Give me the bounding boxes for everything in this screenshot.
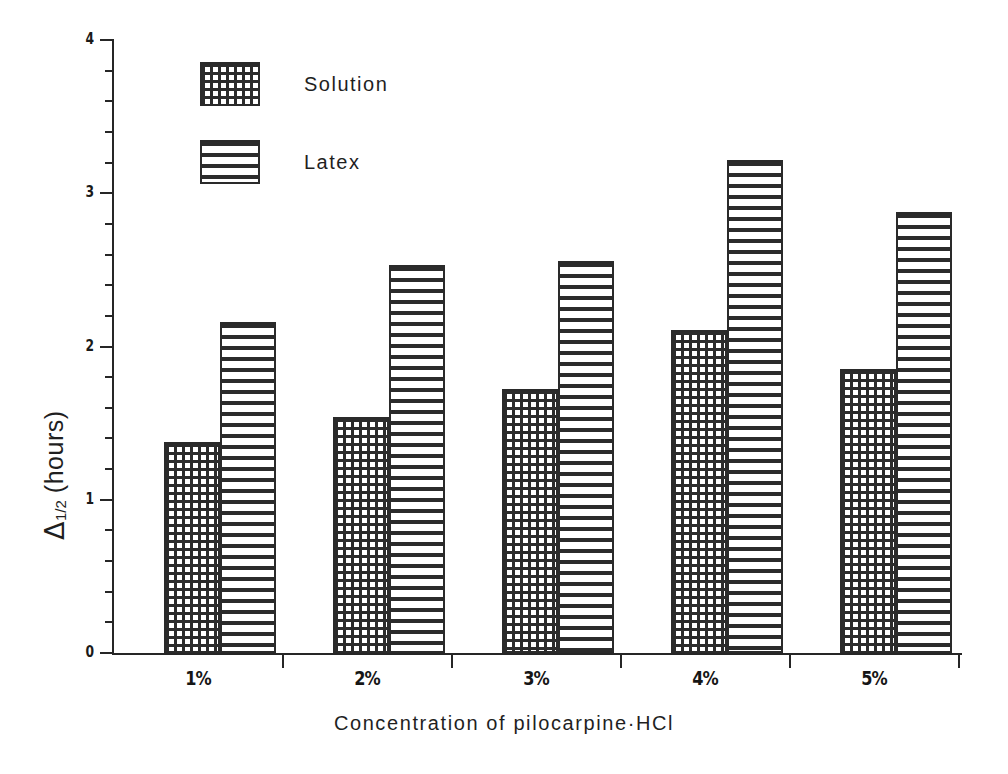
legend-label-solution: Solution [304, 73, 388, 96]
y-tick-minor [105, 468, 113, 470]
x-tick-label: 2% [337, 667, 397, 689]
bar-latex-3pct [558, 261, 614, 653]
y-tick-minor [105, 407, 113, 409]
legend-swatch-latex-icon [200, 140, 260, 184]
y-tick-minor [105, 100, 113, 102]
x-axis-end-tick [958, 655, 960, 668]
legend: Solution Latex [200, 56, 460, 212]
x-tick-label: 5% [844, 667, 904, 689]
y-axis-units: (hours) [40, 410, 69, 493]
y-tick-minor [105, 376, 113, 378]
y-tick-minor [105, 70, 113, 72]
x-axis-title: Concentration of pilocarpine·HCl [0, 712, 1008, 735]
y-tick-major [100, 39, 113, 41]
legend-item-latex[interactable]: Latex [200, 134, 460, 190]
y-tick-label: 1 [76, 490, 94, 508]
y-tick-major [100, 652, 113, 654]
y-tick-minor [105, 621, 113, 623]
bar-latex-2pct [389, 265, 445, 653]
y-tick-label: 0 [76, 643, 94, 661]
y-tick-minor [105, 162, 113, 164]
x-tick [620, 655, 622, 668]
x-axis-line [112, 653, 962, 655]
y-tick-minor [105, 223, 113, 225]
y-tick-label: 4 [76, 30, 94, 48]
y-tick-minor [105, 560, 113, 562]
y-tick-major [100, 499, 113, 501]
bar-latex-4pct [727, 160, 783, 653]
bar-solution-3pct [502, 389, 558, 653]
legend-label-latex: Latex [304, 151, 360, 174]
legend-swatch-solution-icon [200, 62, 260, 106]
x-tick-label: 1% [168, 667, 228, 689]
bar-latex-1pct [220, 322, 276, 653]
bar-solution-5pct [840, 369, 896, 653]
bar-chart-figure: Δ1/2(hours) 01234 1%2%3%4%5% Solution La… [0, 0, 1008, 774]
bar-latex-5pct [896, 212, 952, 653]
bar-solution-1pct [164, 442, 220, 653]
y-tick-label: 2 [76, 337, 94, 355]
x-tick [282, 655, 284, 668]
y-tick-minor [105, 315, 113, 317]
y-tick-minor [105, 254, 113, 256]
x-tick-label: 3% [506, 667, 566, 689]
y-axis-subscript: 1/2 [52, 500, 69, 521]
y-tick-minor [105, 131, 113, 133]
y-tick-major [100, 192, 113, 194]
y-tick-minor [105, 437, 113, 439]
y-axis-delta-symbol: Δ [41, 521, 68, 540]
x-tick [789, 655, 791, 668]
bar-solution-2pct [333, 417, 389, 653]
x-tick-label: 4% [675, 667, 735, 689]
y-tick-major [100, 346, 113, 348]
y-tick-minor [105, 529, 113, 531]
bar-solution-4pct [671, 330, 727, 653]
x-tick [451, 655, 453, 668]
legend-item-solution[interactable]: Solution [200, 56, 460, 112]
y-tick-label: 3 [76, 183, 94, 201]
y-tick-minor [105, 591, 113, 593]
y-tick-minor [105, 284, 113, 286]
y-axis-title: Δ1/2(hours) [34, 240, 74, 540]
